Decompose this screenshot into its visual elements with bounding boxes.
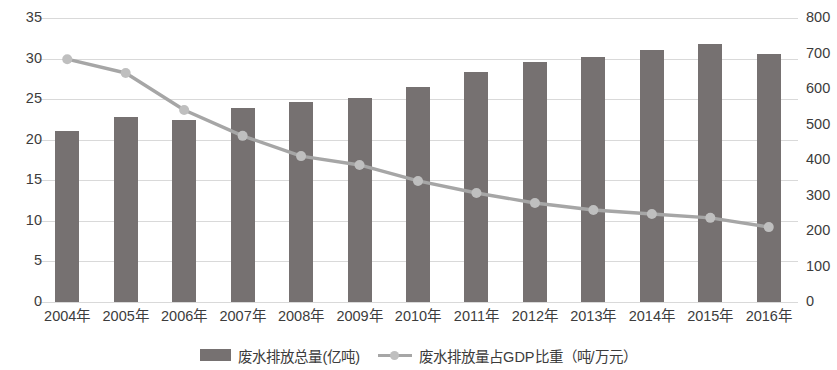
right-axis-tick-label: 600	[806, 81, 836, 96]
right-axis-tick-label: 500	[806, 117, 836, 132]
category-axis-tick-label: 2006年	[155, 306, 213, 326]
line-marker[interactable]: 2007年 468	[238, 131, 248, 141]
legend-item-bar[interactable]: 废水排放总量(亿吨)	[200, 345, 360, 366]
line-marker[interactable]: 2004年 684	[62, 54, 72, 64]
category-axis-tick-label: 2011年	[447, 306, 505, 326]
line-marker[interactable]: 2011年 307	[471, 188, 481, 198]
right-axis-tick-label: 400	[806, 152, 836, 167]
category-axis-tick-label: 2005年	[96, 306, 154, 326]
category-axis-tick-label: 2015年	[681, 306, 739, 326]
legend-item-line[interactable]: 废水排放量占GDP比重（吨/万元）	[378, 345, 636, 366]
bar-swatch-icon	[200, 349, 231, 361]
category-axis: 2004年2005年2006年2007年2008年2009年2010年2011年…	[38, 306, 798, 332]
legend-item-bar-label: 废水排放总量(亿吨)	[238, 345, 360, 366]
right-axis-tick-label: 100	[806, 259, 836, 274]
category-axis-tick-label: 2013年	[564, 306, 622, 326]
line-marker[interactable]: 2015年 237	[705, 213, 715, 223]
category-axis-tick-label: 2010年	[389, 306, 447, 326]
line-marker[interactable]: 2009年 386	[355, 160, 365, 170]
chart-container: 05101520253035 0100200300400500600700800…	[0, 0, 837, 370]
category-axis-tick-label: 2004年	[38, 306, 96, 326]
gridline	[38, 302, 798, 303]
line-marker[interactable]: 2005年 645	[121, 68, 131, 78]
category-axis-tick-label: 2016年	[740, 306, 798, 326]
trend-line	[67, 59, 769, 227]
line-swatch-icon	[378, 349, 412, 361]
right-axis-tick-label: 200	[806, 223, 836, 238]
line-marker[interactable]: 2008年 411	[296, 151, 306, 161]
line-marker[interactable]: 2006年 541	[179, 105, 189, 115]
category-axis-tick-label: 2012年	[506, 306, 564, 326]
line-marker[interactable]: 2012年 279	[530, 198, 540, 208]
right-axis-tick-label: 0	[806, 294, 836, 309]
category-axis-tick-label: 2008年	[272, 306, 330, 326]
line-marker[interactable]: 2013年 259	[588, 205, 598, 215]
chart-legend: 废水排放总量(亿吨) 废水排放量占GDP比重（吨/万元）	[0, 341, 837, 369]
line-marker[interactable]: 2014年 248	[647, 209, 657, 219]
line-marker[interactable]: 2016年 211	[764, 222, 774, 232]
category-axis-tick-label: 2009年	[330, 306, 388, 326]
right-axis-tick-label: 300	[806, 188, 836, 203]
category-axis-tick-label: 2014年	[623, 306, 681, 326]
line-series-layer: 2004年 6842005年 6452006年 5412007年 4682008…	[38, 18, 798, 302]
category-axis-tick-label: 2007年	[213, 306, 271, 326]
line-marker[interactable]: 2010年 341	[413, 176, 423, 186]
right-axis-tick-label: 800	[806, 10, 836, 25]
legend-item-line-label: 废水排放量占GDP比重（吨/万元）	[419, 345, 636, 366]
right-axis-tick-label: 700	[806, 46, 836, 61]
